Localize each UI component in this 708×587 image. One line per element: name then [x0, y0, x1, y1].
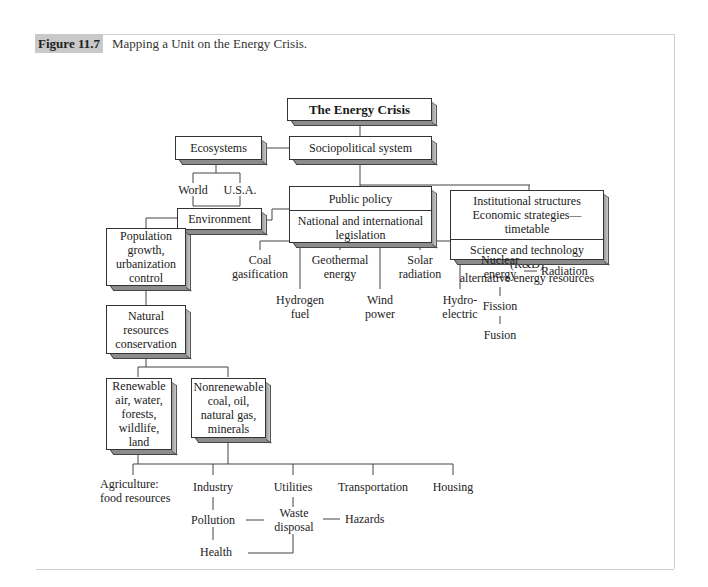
radiation-label: Radiation: [541, 264, 588, 278]
agriculture-label: Agriculture:food resources: [100, 477, 170, 505]
health-label: Health: [194, 545, 238, 559]
ecosystems-box: Ecosystems: [175, 136, 262, 160]
hydrogen-fuel-label: Hydrogenfuel: [274, 293, 326, 321]
population-growth-box: Population growth, urbanization control: [106, 228, 186, 286]
world-label: World: [175, 183, 211, 197]
industry-label: Industry: [183, 480, 243, 494]
hazards-label: Hazards: [345, 512, 384, 526]
sociopolitical-system-box: Sociopolitical system: [289, 136, 432, 160]
usa-label: U.S.A.: [220, 183, 260, 197]
geothermal-energy-label: Geothermalenergy: [308, 253, 372, 281]
institutional-header: Institutional structures Economic strate…: [451, 191, 603, 239]
pollution-label: Pollution: [183, 513, 243, 527]
energy-crisis-title: The Energy Crisis: [309, 103, 410, 117]
renewable-box: Renewable air, water, forests, wildlife,…: [106, 378, 172, 450]
institutional-structures-box: Institutional structures Economic strate…: [450, 190, 604, 260]
nonrenewable-box: Nonrenewable coal, oil, natural gas, min…: [191, 378, 266, 438]
public-policy-box: Public policy National and international…: [289, 186, 432, 243]
fission-label: Fission: [478, 299, 522, 313]
waste-disposal-label: Wastedisposal: [266, 506, 322, 534]
ecosystems-label: Ecosystems: [190, 141, 247, 155]
coal-gasification-label: Coalgasification: [232, 253, 288, 281]
wind-power-label: Windpower: [358, 293, 402, 321]
nuclear-energy-label: Nuclearenergy: [474, 253, 526, 281]
natural-resources-box: Natural resources conservation: [106, 305, 186, 354]
public-policy-header: Public policy: [290, 187, 431, 210]
energy-crisis-box: The Energy Crisis: [287, 98, 432, 121]
utilities-label: Utilities: [263, 480, 323, 494]
solar-radiation-label: Solarradiation: [392, 253, 448, 281]
hydroelectric-label: Hydro-electric: [436, 293, 484, 321]
transportation-label: Transportation: [333, 480, 413, 494]
housing-label: Housing: [423, 480, 483, 494]
sociopolitical-label: Sociopolitical system: [309, 141, 412, 155]
environment-box: Environment: [177, 208, 262, 230]
legislation-section: National and international legislation: [290, 210, 431, 245]
environment-label: Environment: [188, 212, 251, 226]
fusion-label: Fusion: [478, 328, 522, 342]
